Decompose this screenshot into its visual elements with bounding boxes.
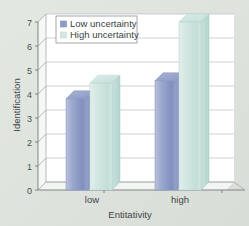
legend-swatch-high-uncertainty [61,32,67,38]
x-axis-title: Entitativity [108,209,152,220]
legend-label-low-uncertainty: Low uncertainty [70,18,137,29]
x-category-label-high: high [171,194,189,205]
y-tick-label-0: 0 [27,186,32,196]
y-axis-title: Identification [11,78,22,131]
bar-chart-figure: 7 6 5 4 3 2 1 0 [0,0,249,226]
plot-left-wall [38,14,46,190]
bar-high-high-uncertainty [179,14,209,190]
y-tick-label-6: 6 [27,42,32,52]
chart-canvas: 7 6 5 4 3 2 1 0 [0,0,249,226]
y-tick-label-5: 5 [27,66,32,76]
y-tick-label-3: 3 [27,114,32,124]
legend: Low uncertainty High uncertainty [56,16,139,43]
y-tick-label-7: 7 [27,18,32,28]
y-tick-label-1: 1 [27,162,32,172]
legend-swatch-low-uncertainty [61,21,67,27]
y-tick-label-4: 4 [27,90,32,100]
legend-label-high-uncertainty: High uncertainty [70,29,139,40]
bar-low-high-uncertainty [90,75,120,190]
y-tick-label-2: 2 [27,138,32,148]
x-category-label-low: low [85,194,99,205]
